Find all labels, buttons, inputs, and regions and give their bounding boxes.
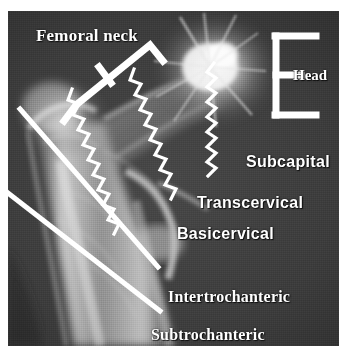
label-head: Head (293, 68, 327, 83)
radiograph-panel: Femoral neck Head Subcapital Transcervic… (8, 11, 339, 346)
label-subcapital: Subcapital (246, 154, 330, 170)
label-femoral-neck: Femoral neck (36, 27, 138, 44)
figure-root: Femoral neck Head Subcapital Transcervic… (0, 0, 352, 357)
label-intertrochanteric: Intertrochanteric (168, 289, 290, 305)
label-transcervical: Transcervical (197, 195, 303, 211)
label-subtrochanteric: Subtrochanteric (151, 327, 265, 343)
label-basicervical: Basicervical (177, 226, 274, 242)
